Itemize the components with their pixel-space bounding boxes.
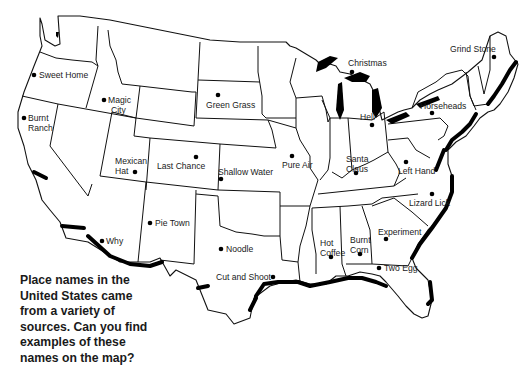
label-hot-coffee: Hot Coffee xyxy=(320,238,345,258)
label-burnt-ranch: Burnt Ranch xyxy=(28,113,53,133)
label-sweet-home: Sweet Home xyxy=(39,70,88,80)
dot-two-egg xyxy=(377,266,382,271)
label-shallow-water: Shallow Water xyxy=(218,167,273,177)
label-horseheads: Horseheads xyxy=(420,101,466,111)
dot-horseheads xyxy=(430,111,435,116)
label-santa-claus-line1: Santa xyxy=(346,154,368,164)
label-burnt-ranch-line1: Burnt xyxy=(28,113,53,123)
label-left-hand: Left Hand xyxy=(398,166,435,176)
dot-cut-and-shoot xyxy=(271,275,276,280)
label-hell: Hell xyxy=(360,112,375,122)
dot-christmas xyxy=(350,70,355,75)
label-burnt-corn: Burnt Corn xyxy=(350,235,371,255)
label-magic-city: Magic City xyxy=(108,95,131,115)
label-christmas: Christmas xyxy=(348,58,387,68)
label-cut-and-shoot: Cut and Shoot xyxy=(216,272,271,282)
dot-sweet-home xyxy=(32,73,37,78)
label-mexican-hat-line1: Mexican xyxy=(115,156,147,166)
label-mexican-hat: Mexican Hat xyxy=(115,156,147,176)
label-burnt-ranch-line2: Ranch xyxy=(28,123,53,133)
label-hot-coffee-line1: Hot xyxy=(320,238,345,248)
label-santa-claus-line2: Claus xyxy=(346,164,368,174)
dot-last-chance xyxy=(194,155,199,160)
dot-grind-stone xyxy=(492,55,497,60)
dot-pure-air xyxy=(290,154,295,159)
label-hot-coffee-line2: Coffee xyxy=(320,248,345,258)
label-noodle: Noodle xyxy=(226,244,253,254)
label-grind-stone: Grind Stone xyxy=(450,44,496,54)
label-santa-claus: Santa Claus xyxy=(346,154,368,174)
dot-noodle xyxy=(219,247,224,252)
label-green-grass: Green Grass xyxy=(206,100,255,110)
label-burnt-corn-line2: Corn xyxy=(350,245,371,255)
dot-green-grass xyxy=(216,93,221,98)
label-burnt-corn-line1: Burnt xyxy=(350,235,371,245)
label-experiment: Experiment xyxy=(378,227,421,237)
label-last-chance: Last Chance xyxy=(157,161,205,171)
dot-burnt-ranch xyxy=(22,116,27,121)
dot-why xyxy=(100,239,105,244)
label-mexican-hat-line2: Hat xyxy=(115,166,147,176)
dot-left-hand xyxy=(404,160,409,165)
dot-experiment xyxy=(384,237,389,242)
dot-magic-city xyxy=(102,98,107,103)
label-magic-city-line2: City xyxy=(108,105,131,115)
label-pie-town: Pie Town xyxy=(155,218,190,228)
dot-hell xyxy=(370,123,375,128)
label-lizard-lick: Lizard Lick xyxy=(409,198,450,208)
label-why: Why xyxy=(106,236,123,246)
dot-lizard-lick xyxy=(430,192,435,197)
label-two-egg: Two Egg xyxy=(384,263,417,273)
label-pure-air: Pure Air xyxy=(282,160,313,170)
map-caption: Place names in the United States came fr… xyxy=(20,273,160,367)
dot-shallow-water xyxy=(219,177,224,182)
label-magic-city-line1: Magic xyxy=(108,95,131,105)
dot-pie-town xyxy=(148,221,153,226)
